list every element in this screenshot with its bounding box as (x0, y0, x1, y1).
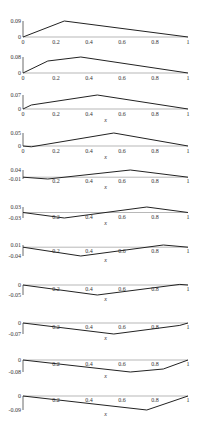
x-axis-label: x (103, 184, 107, 190)
y-max-label: 0.03 (11, 204, 22, 210)
x-axis-label: x (103, 335, 107, 341)
y-min-label: -0.05 (9, 292, 22, 298)
data-line (23, 245, 188, 256)
x-tick-label: 1 (187, 397, 190, 403)
y-min-label: -0.09 (9, 407, 22, 413)
data-line (23, 284, 188, 295)
x-axis-label: x (103, 117, 107, 123)
x-tick-label: 0 (22, 75, 25, 81)
x-tick-label: 1 (187, 178, 190, 184)
x-tick-label: 0.8 (151, 39, 159, 45)
x-tick-label: 0.8 (151, 178, 159, 184)
x-axis-label: x (103, 257, 107, 263)
y-min-label: -0.01 (9, 176, 22, 182)
y-max-label: 0.01 (11, 242, 22, 248)
x-tick-label: 0.4 (85, 324, 93, 330)
x-tick-label: 1 (187, 361, 190, 367)
y-max-label: 0 (18, 393, 21, 399)
data-line (23, 57, 188, 73)
y-max-label: 0.07 (11, 92, 22, 98)
data-line (23, 170, 188, 179)
x-tick-label: 1 (187, 148, 190, 154)
data-line (23, 95, 188, 109)
x-tick-label: 0.8 (151, 397, 159, 403)
x-tick-label: 0.6 (118, 111, 126, 117)
x-tick-label: 0.2 (52, 39, 60, 45)
x-tick-label: 0.2 (52, 248, 60, 254)
data-line (23, 396, 188, 410)
x-tick-label: 0.8 (151, 361, 159, 367)
x-tick-label: 0.4 (85, 397, 93, 403)
x-tick-label: 0.6 (118, 324, 126, 330)
x-tick-label: 0.4 (85, 286, 93, 292)
x-axis-label: x (103, 373, 107, 379)
x-tick-label: 0.6 (118, 361, 126, 367)
x-tick-label: 0.4 (85, 178, 93, 184)
data-line (23, 21, 188, 37)
x-tick-label: 1 (187, 286, 190, 292)
x-tick-label: 0.8 (151, 148, 159, 154)
x-tick-label: 1 (187, 39, 190, 45)
y-max-label: 0 (18, 320, 21, 326)
x-tick-label: 0 (22, 111, 25, 117)
x-tick-label: 0 (22, 39, 25, 45)
x-tick-label: 1 (187, 75, 190, 81)
x-tick-label: 0.8 (151, 75, 159, 81)
x-tick-label: 0.2 (52, 148, 60, 154)
x-tick-label: 0.4 (85, 111, 93, 117)
x-tick-label: 0.4 (85, 75, 93, 81)
x-axis-label: x (103, 296, 107, 302)
data-line (23, 323, 188, 334)
x-tick-label: 0.8 (151, 214, 159, 220)
stacked-line-plots: 0.09000.20.40.60.810.08000.20.40.60.810.… (0, 0, 198, 434)
x-tick-label: 0.4 (85, 148, 93, 154)
x-axis-label: x (103, 411, 107, 417)
x-tick-label: 0.6 (118, 178, 126, 184)
y-min-label: -0.07 (9, 331, 22, 337)
x-tick-label: 0 (22, 148, 25, 154)
y-max-label: 0 (18, 357, 21, 363)
x-tick-label: 0.6 (118, 214, 126, 220)
data-line (23, 360, 188, 372)
y-min-label: -0.04 (9, 253, 22, 259)
x-axis-label: x (103, 220, 107, 226)
y-min-label: -0.08 (9, 369, 22, 375)
data-line (23, 133, 188, 147)
x-tick-label: 1 (187, 214, 190, 220)
x-tick-label: 0.8 (151, 248, 159, 254)
x-tick-label: 0.6 (118, 397, 126, 403)
x-tick-label: 0.2 (52, 75, 60, 81)
x-tick-label: 1 (187, 248, 190, 254)
y-max-label: 0.04 (11, 167, 22, 173)
x-tick-label: 0.6 (118, 39, 126, 45)
y-max-label: 0.05 (11, 130, 22, 136)
x-tick-label: 1 (187, 111, 190, 117)
x-tick-label: 0.6 (118, 75, 126, 81)
x-tick-label: 0.8 (151, 111, 159, 117)
y-max-label: 0 (18, 282, 21, 288)
x-tick-label: 0.2 (52, 111, 60, 117)
y-min-label: -0.03 (9, 215, 22, 221)
x-tick-label: 1 (187, 324, 190, 330)
y-max-label: 0.09 (11, 18, 22, 24)
x-tick-label: 0.4 (85, 248, 93, 254)
x-tick-label: 0.4 (85, 361, 93, 367)
y-max-label: 0.08 (11, 54, 22, 60)
x-tick-label: 0.2 (52, 178, 60, 184)
x-tick-label: 0.6 (118, 148, 126, 154)
x-axis-label: x (103, 154, 107, 160)
x-tick-label: 0.4 (85, 39, 93, 45)
